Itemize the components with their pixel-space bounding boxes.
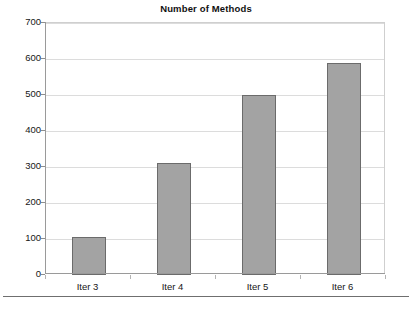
y-tick-label-wrap: 400 bbox=[0, 125, 41, 135]
y-tick-label-wrap: 700 bbox=[0, 17, 41, 27]
bar bbox=[242, 95, 276, 275]
y-tick-label: 300 bbox=[7, 161, 41, 171]
y-tick-label-wrap: 100 bbox=[0, 233, 41, 243]
y-tick-mark bbox=[41, 130, 45, 131]
gridline bbox=[46, 23, 384, 24]
chart-title: Number of Methods bbox=[0, 3, 412, 14]
x-axis-line bbox=[45, 273, 385, 274]
y-tick-label: 100 bbox=[7, 233, 41, 243]
y-tick-mark bbox=[41, 238, 45, 239]
gridline bbox=[46, 59, 384, 60]
y-tick-mark bbox=[41, 22, 45, 23]
y-axis-line bbox=[45, 22, 46, 274]
bar bbox=[72, 237, 106, 275]
x-tick-mark bbox=[130, 275, 131, 279]
y-tick-label-wrap: 0 bbox=[0, 269, 41, 279]
y-tick-label-wrap: 600 bbox=[0, 53, 41, 63]
y-tick-mark bbox=[41, 166, 45, 167]
y-tick-label: 200 bbox=[7, 197, 41, 207]
y-tick-label: 500 bbox=[7, 89, 41, 99]
bar bbox=[157, 163, 191, 275]
y-tick-mark bbox=[41, 58, 45, 59]
x-axis-category-label: Iter 4 bbox=[130, 281, 215, 292]
y-tick-label: 0 bbox=[7, 269, 41, 279]
y-tick-label: 600 bbox=[7, 53, 41, 63]
bar-chart: Number of Methods 0100200300400500600700… bbox=[0, 0, 412, 309]
x-axis-category-label: Iter 3 bbox=[45, 281, 130, 292]
x-tick-mark bbox=[385, 275, 386, 279]
x-tick-mark bbox=[215, 275, 216, 279]
y-tick-label-wrap: 300 bbox=[0, 161, 41, 171]
y-tick-label-wrap: 500 bbox=[0, 89, 41, 99]
x-tick-mark bbox=[45, 275, 46, 279]
y-tick-label: 400 bbox=[7, 125, 41, 135]
plot-area bbox=[45, 22, 385, 274]
x-tick-mark bbox=[300, 275, 301, 279]
y-tick-label-wrap: 200 bbox=[0, 197, 41, 207]
x-axis-category-label: Iter 5 bbox=[215, 281, 300, 292]
x-axis-category-label: Iter 6 bbox=[300, 281, 385, 292]
bar bbox=[327, 63, 361, 275]
y-tick-mark bbox=[41, 94, 45, 95]
y-tick-mark bbox=[41, 202, 45, 203]
y-tick-label: 700 bbox=[7, 17, 41, 27]
footer-rule bbox=[3, 296, 409, 297]
